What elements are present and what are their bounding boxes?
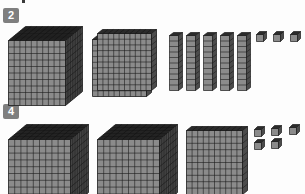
thousand-cube-row1-1 bbox=[8, 26, 84, 107]
crop-artifact-mark bbox=[22, 0, 25, 3]
hundred-flat-row2-1 bbox=[186, 126, 249, 194]
one-unit-row1-1 bbox=[256, 31, 268, 43]
problem-number-badge-2: 2 bbox=[3, 8, 19, 23]
ten-rod-row1-3 bbox=[203, 32, 218, 92]
thousand-cube-row2-1 bbox=[8, 124, 90, 194]
one-unit-row2-1 bbox=[254, 126, 266, 138]
ten-rod-row1-4 bbox=[220, 32, 235, 92]
one-unit-row2-4 bbox=[254, 139, 266, 151]
hundred-flat-row1-1 bbox=[97, 29, 158, 92]
thousand-cube-row2-2 bbox=[97, 124, 179, 194]
one-unit-row2-5 bbox=[271, 138, 283, 150]
worksheet-canvas: 2 4 bbox=[0, 0, 305, 194]
ten-rod-row1-1 bbox=[169, 32, 184, 92]
ten-rod-row1-2 bbox=[186, 32, 201, 92]
ten-rod-row1-5 bbox=[237, 32, 252, 92]
one-unit-row1-2 bbox=[273, 31, 285, 43]
one-unit-row2-2 bbox=[271, 125, 283, 137]
one-unit-row1-3 bbox=[290, 31, 302, 43]
one-unit-row2-3 bbox=[289, 124, 301, 136]
